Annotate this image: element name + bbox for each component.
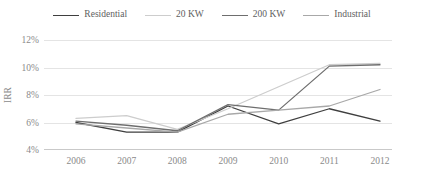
- legend-label: 20 KW: [176, 10, 204, 20]
- legend-item-industrial[interactable]: Industrial: [303, 10, 370, 20]
- x-tick-label: 2006: [67, 156, 86, 166]
- series-lines: [44, 40, 392, 150]
- legend-swatch-icon: [222, 15, 248, 16]
- x-tick-label: 2012: [371, 156, 390, 166]
- x-tick-label: 2007: [117, 156, 136, 166]
- y-tick-label: 6%: [26, 118, 39, 128]
- legend-label: Industrial: [334, 10, 370, 20]
- legend-item-200-kw[interactable]: 200 KW: [222, 10, 285, 20]
- chart-legend: Residential20 KW200 KWIndustrial: [0, 6, 424, 24]
- legend-swatch-icon: [53, 15, 79, 16]
- series-line-industrial: [76, 90, 380, 133]
- x-tick-label: 2010: [269, 156, 288, 166]
- y-axis-title: IRR: [3, 87, 13, 103]
- x-tick-label: 2009: [219, 156, 238, 166]
- legend-swatch-icon: [303, 15, 329, 16]
- line-chart: Residential20 KW200 KWIndustrial 4%6%8%1…: [0, 0, 424, 185]
- series-line-20-kw: [76, 63, 380, 129]
- y-tick-label: 12%: [22, 35, 39, 45]
- y-tick-label: 10%: [22, 63, 39, 73]
- x-tick-label: 2008: [168, 156, 187, 166]
- legend-label: 200 KW: [253, 10, 285, 20]
- legend-item-20-kw[interactable]: 20 KW: [145, 10, 204, 20]
- legend-item-residential[interactable]: Residential: [53, 10, 127, 20]
- y-tick-label: 4%: [26, 145, 39, 155]
- legend-label: Residential: [84, 10, 127, 20]
- x-tick-label: 2011: [320, 156, 339, 166]
- plot-area: 4%6%8%10%12% 200620072008200920102011201…: [44, 40, 392, 150]
- series-line-200-kw: [76, 65, 380, 131]
- legend-swatch-icon: [145, 15, 171, 16]
- y-tick-label: 8%: [26, 90, 39, 100]
